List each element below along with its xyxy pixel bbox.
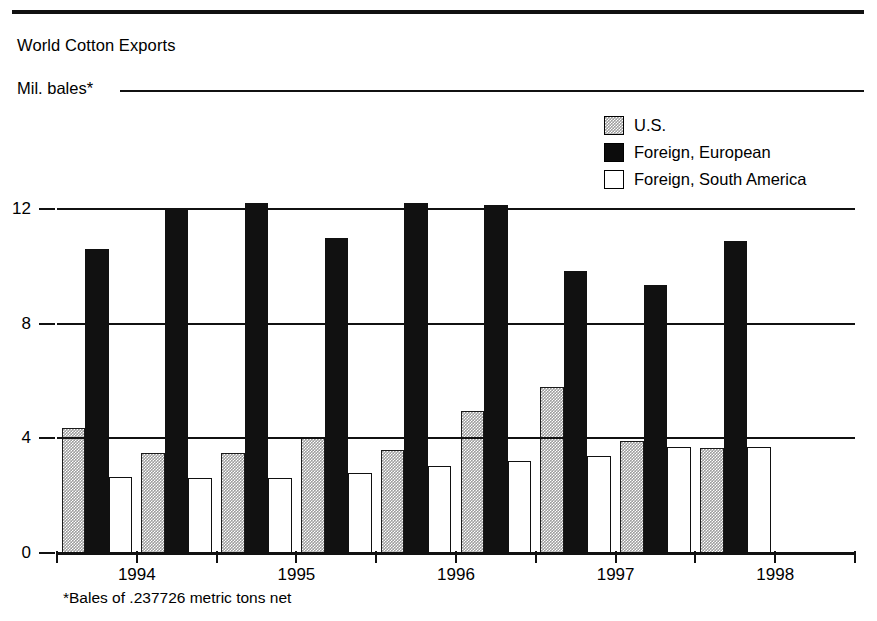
legend-label-us: U.S. — [634, 117, 666, 134]
axis-unit-rule — [120, 90, 864, 92]
x-axis-tick-9 — [774, 551, 776, 563]
bar-foreign-european-1995-h2 — [325, 238, 349, 553]
x-axis-tick-0 — [56, 551, 58, 563]
bar-foreign-european-1996-h1 — [404, 203, 428, 553]
bar-foreign-european-1994-h2 — [165, 209, 189, 553]
top-divider-rule — [12, 10, 864, 14]
legend-label-foreign-south-america: Foreign, South America — [634, 171, 806, 188]
x-axis-tick-2 — [216, 551, 218, 563]
y-tick-mark-8 — [39, 323, 55, 325]
legend-item-foreign-european: Foreign, European — [604, 139, 874, 165]
bar-foreign-european-1994-h1 — [85, 249, 109, 553]
bar-foreign-south-america-1994-h1 — [109, 477, 133, 553]
bar-foreign-south-america-1997-h2 — [667, 447, 691, 553]
x-axis-tick-10 — [854, 551, 856, 563]
bar-foreign-south-america-1998-h1 — [747, 447, 771, 553]
y-tick-mark-4 — [39, 437, 55, 439]
axis-unit-row: Mil. bales* — [17, 79, 864, 101]
x-axis-tick-4 — [375, 551, 377, 563]
bar-foreign-south-america-1995-h2 — [348, 473, 372, 553]
bar-us-1996-h1 — [381, 450, 405, 553]
bar-us-1997-h1 — [540, 387, 564, 553]
legend-item-us: U.S. — [604, 112, 874, 138]
legend-label-foreign-european: Foreign, European — [634, 144, 771, 161]
bar-us-1997-h2 — [620, 441, 644, 553]
chart-page: World Cotton Exports World Cotton Export… — [0, 0, 877, 621]
bar-us-1996-h2 — [461, 411, 485, 553]
legend-swatch-foreign-european-icon — [604, 143, 624, 162]
x-axis-label-1995: 1995 — [256, 566, 336, 583]
x-axis-tick-8 — [694, 551, 696, 563]
chart-subtitle: World Cotton Exports — [17, 36, 176, 55]
bar-us-1998-h1 — [700, 448, 724, 553]
bar-foreign-south-america-1995-h1 — [268, 478, 292, 553]
bar-foreign-european-1997-h1 — [564, 271, 588, 553]
bar-foreign-european-1995-h1 — [245, 203, 269, 553]
gridline-4 — [57, 437, 855, 439]
bar-us-1995-h2 — [301, 438, 325, 553]
bar-foreign-south-america-1996-h2 — [508, 461, 532, 553]
bar-foreign-south-america-1996-h1 — [428, 466, 452, 553]
plot-area: 19941995199619971998 — [57, 205, 855, 553]
y-tick-mark-0 — [39, 552, 55, 554]
bar-foreign-south-america-1997-h1 — [587, 456, 611, 553]
bars-layer — [57, 205, 855, 553]
chart-legend: U.S. Foreign, European Foreign, South Am… — [604, 112, 874, 193]
bar-us-1995-h1 — [221, 453, 245, 553]
x-axis-label-1996: 1996 — [416, 566, 496, 583]
x-axis-tick-5 — [455, 551, 457, 563]
y-axis-tick-label-12: 12 — [5, 200, 31, 217]
x-axis-label-1994: 1994 — [97, 566, 177, 583]
gridline-8 — [57, 323, 855, 325]
legend-swatch-us-icon — [604, 116, 624, 135]
legend-item-foreign-south-america: Foreign, South America — [604, 166, 874, 192]
x-axis-tick-7 — [615, 551, 617, 563]
y-axis-tick-label-8: 8 — [5, 315, 31, 332]
y-axis-unit-label: Mil. bales* — [17, 79, 93, 98]
x-axis-tick-6 — [535, 551, 537, 563]
y-tick-mark-12 — [39, 208, 55, 210]
x-axis-tick-1 — [136, 551, 138, 563]
chart-footnote: *Bales of .237726 metric tons net — [63, 589, 291, 607]
gridline-12 — [57, 208, 855, 210]
bar-us-1994-h2 — [141, 453, 165, 553]
legend-swatch-foreign-south-america-icon — [604, 170, 624, 189]
bar-foreign-south-america-1994-h2 — [188, 478, 212, 553]
x-axis-label-1998: 1998 — [735, 566, 815, 583]
x-axis-tick-3 — [295, 551, 297, 563]
bar-foreign-european-1996-h2 — [484, 205, 508, 553]
y-axis-tick-label-0: 0 — [5, 544, 31, 561]
bar-foreign-european-1997-h2 — [644, 285, 668, 553]
x-axis-label-1997: 1997 — [576, 566, 656, 583]
y-axis-tick-label-4: 4 — [5, 429, 31, 446]
bar-us-1994-h1 — [62, 428, 86, 553]
bar-foreign-european-1998-h1 — [724, 241, 748, 553]
